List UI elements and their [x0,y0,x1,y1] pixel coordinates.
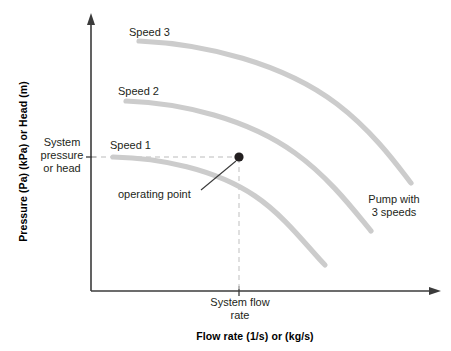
x-axis [91,287,441,295]
operating-point-leader-line [201,161,236,190]
curve-speed-2 [126,101,371,231]
x-axis-title: Flow rate (1/s) or (kg/s) [85,330,425,343]
pump-curve-figure: Speed 3 Speed 2 Speed 1 operating point … [0,0,451,351]
curve-label-speed-3: Speed 3 [129,26,170,39]
y-axis-title: Pressure (Pa) (kPa) or Head (m) [17,47,30,277]
x-tick-label-system-flow: System flow rate [192,296,288,322]
curve-speed-3 [139,41,411,183]
curve-speed-1 [113,157,325,265]
y-tick-label-system-pressure: System pressure or head [34,136,90,175]
operating-point-label: operating point [118,188,191,201]
pump-speeds-annotation: Pump with 3 speeds [348,193,440,219]
curve-label-speed-1: Speed 1 [110,139,151,152]
operating-point-marker[interactable] [234,152,243,161]
curve-label-speed-2: Speed 2 [118,85,159,98]
